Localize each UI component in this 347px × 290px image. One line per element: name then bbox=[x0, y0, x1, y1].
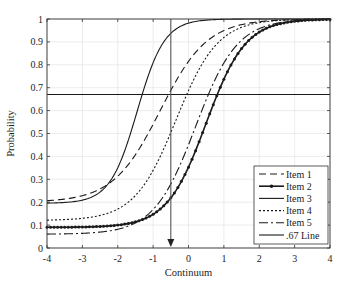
series-marker bbox=[63, 226, 66, 229]
series-marker bbox=[251, 36, 254, 39]
series-marker bbox=[91, 225, 94, 228]
series-marker bbox=[201, 131, 204, 134]
series-marker bbox=[240, 47, 243, 50]
y-tick-label: 0.8 bbox=[31, 59, 44, 70]
series-marker bbox=[208, 112, 211, 115]
series-marker bbox=[162, 204, 165, 207]
series-marker bbox=[70, 226, 73, 229]
series-marker bbox=[237, 52, 240, 55]
x-tick-label: -3 bbox=[78, 253, 86, 264]
legend-label: Item 2 bbox=[286, 181, 312, 192]
legend-label: .67 Line bbox=[286, 230, 320, 241]
series-marker bbox=[109, 224, 112, 227]
y-tick-label: 0.2 bbox=[31, 197, 44, 208]
y-tick-label: 0.3 bbox=[31, 174, 44, 185]
series-marker bbox=[219, 86, 222, 89]
series-marker bbox=[261, 29, 264, 32]
x-axis-label: Continuum bbox=[165, 267, 212, 278]
series-marker bbox=[60, 226, 63, 229]
series-marker bbox=[226, 70, 229, 73]
x-tick-label: 2 bbox=[257, 253, 262, 264]
series-marker bbox=[67, 226, 70, 229]
series-marker bbox=[116, 224, 119, 227]
y-tick-label: 0 bbox=[38, 243, 43, 254]
series-marker bbox=[120, 223, 123, 226]
series-marker bbox=[198, 140, 201, 143]
legend-label: Item 4 bbox=[286, 205, 312, 216]
arrow-head-icon bbox=[167, 239, 174, 247]
legend: Item 1Item 2Item 3Item 4Item 5.67 Line bbox=[254, 166, 328, 244]
series-marker bbox=[187, 166, 190, 169]
series-marker bbox=[191, 158, 194, 161]
series-marker bbox=[159, 208, 162, 211]
series-marker bbox=[106, 225, 109, 228]
series-marker bbox=[81, 226, 84, 229]
series-marker bbox=[212, 103, 215, 106]
series-marker bbox=[74, 226, 77, 229]
series-marker bbox=[166, 201, 169, 204]
series-marker bbox=[183, 173, 186, 176]
x-tick-label: 4 bbox=[328, 253, 333, 264]
series-marker bbox=[173, 191, 176, 194]
x-tick-label: -1 bbox=[149, 253, 157, 264]
series-marker bbox=[176, 186, 179, 189]
series-marker bbox=[247, 39, 250, 42]
probability-chart: -4-3-2-101234 00.10.20.30.40.50.60.70.80… bbox=[0, 0, 347, 290]
y-axis-label: Probability bbox=[5, 109, 16, 156]
y-tick-label: 0.4 bbox=[31, 151, 44, 162]
series-marker bbox=[180, 180, 183, 183]
series-marker bbox=[258, 31, 261, 34]
series-marker bbox=[265, 27, 268, 30]
y-tick-label: 0.1 bbox=[31, 220, 44, 231]
series-marker bbox=[254, 33, 257, 36]
arrow-annotation bbox=[167, 19, 174, 247]
series-marker bbox=[56, 226, 59, 229]
series-marker bbox=[84, 225, 87, 228]
series-marker bbox=[152, 213, 155, 216]
legend-label: Item 1 bbox=[286, 169, 312, 180]
series-marker bbox=[244, 43, 247, 46]
x-tick-label: -4 bbox=[43, 253, 51, 264]
x-tick-label: 3 bbox=[292, 253, 297, 264]
series-marker bbox=[127, 222, 130, 225]
y-tick-label: 0.6 bbox=[31, 105, 44, 116]
x-tick-label: -2 bbox=[114, 253, 122, 264]
series-marker bbox=[233, 57, 236, 60]
series-marker bbox=[77, 226, 80, 229]
series-marker bbox=[102, 225, 105, 228]
series-marker bbox=[222, 78, 225, 81]
series-marker bbox=[194, 149, 197, 152]
y-tick-label: 0.7 bbox=[31, 82, 44, 93]
series-marker bbox=[49, 226, 52, 229]
series-marker bbox=[123, 223, 126, 226]
series-marker bbox=[229, 64, 232, 67]
y-tick-label: 0.9 bbox=[31, 36, 44, 47]
series-marker bbox=[268, 25, 271, 28]
series-marker bbox=[95, 225, 98, 228]
series-marker bbox=[155, 210, 158, 213]
y-tick-label: 1 bbox=[38, 14, 43, 25]
series-marker bbox=[205, 122, 208, 125]
y-tick-label: 0.5 bbox=[31, 128, 44, 139]
series-marker bbox=[286, 21, 289, 24]
x-tick-label: 1 bbox=[221, 253, 226, 264]
series-marker bbox=[148, 215, 151, 218]
series-marker bbox=[99, 225, 102, 228]
series-marker bbox=[53, 226, 56, 229]
legend-label: Item 5 bbox=[286, 217, 312, 228]
series-marker bbox=[145, 217, 148, 220]
legend-label: Item 3 bbox=[286, 193, 312, 204]
series-marker bbox=[88, 225, 91, 228]
x-tick-label: 0 bbox=[186, 253, 191, 264]
series-marker bbox=[113, 224, 116, 227]
